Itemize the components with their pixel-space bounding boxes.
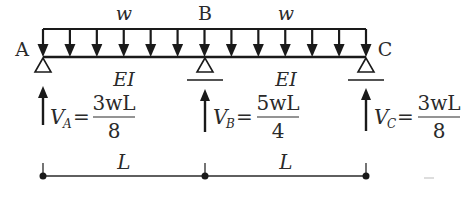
reaction-numerator: 5wL xyxy=(256,91,299,115)
support-label-b: B xyxy=(198,2,212,24)
reaction-c: V C = 3wL 8 xyxy=(374,91,461,143)
arrowhead-down-icon xyxy=(307,44,318,57)
dimension-dot xyxy=(202,173,209,180)
dimension-dot xyxy=(363,173,370,180)
support-b-roller xyxy=(187,58,223,80)
support-c-roller xyxy=(348,58,384,80)
arrowhead-down-icon xyxy=(361,44,372,57)
arrowhead-up-icon xyxy=(38,86,48,98)
arrowhead-down-icon xyxy=(334,44,345,57)
arrowhead-down-icon xyxy=(253,44,264,57)
support-a-pin xyxy=(35,58,51,72)
reaction-denominator: 4 xyxy=(272,119,285,143)
arrowhead-down-icon xyxy=(172,44,183,57)
stiffness-label-left: EI xyxy=(112,68,135,90)
support-label-a: A xyxy=(14,38,29,60)
roller-support-icon xyxy=(358,58,374,72)
load-label-right: w xyxy=(278,2,294,24)
span-label-left: L xyxy=(116,150,130,174)
arrowhead-down-icon xyxy=(199,44,210,57)
reaction-subscript: C xyxy=(387,117,396,131)
arrowhead-down-icon xyxy=(91,44,102,57)
dimension-line xyxy=(40,163,370,180)
reaction-denominator: 8 xyxy=(433,119,446,143)
arrowhead-up-icon xyxy=(361,88,371,100)
pin-support-icon xyxy=(35,58,51,72)
load-arrows xyxy=(38,29,372,57)
reaction-denominator: 8 xyxy=(108,119,121,143)
reaction-equals: = xyxy=(397,105,414,129)
beam-diagram: w w B A C EI EI V A = 3wL 8 V B = 5wL 4 … xyxy=(0,0,469,201)
arrowhead-down-icon xyxy=(64,44,75,57)
support-label-c: C xyxy=(378,38,393,60)
arrowhead-down-icon xyxy=(118,44,129,57)
reaction-b: V B = 5wL 4 xyxy=(213,91,300,143)
reaction-equals: = xyxy=(236,105,253,129)
dimension-dot xyxy=(40,173,47,180)
reaction-subscript: B xyxy=(225,117,235,131)
arrowhead-down-icon xyxy=(38,44,49,57)
reaction-numerator: 3wL xyxy=(417,91,460,115)
arrowhead-down-icon xyxy=(145,44,156,57)
arrowhead-up-icon xyxy=(200,89,210,101)
reaction-a: V A = 3wL 8 xyxy=(50,91,136,143)
arrowhead-down-icon xyxy=(226,44,237,57)
reaction-subscript: A xyxy=(62,117,72,131)
load-label-left: w xyxy=(116,2,132,24)
reaction-equals: = xyxy=(73,105,90,129)
span-label-right: L xyxy=(278,150,292,174)
roller-support-icon xyxy=(197,58,213,72)
stiffness-label-right: EI xyxy=(274,68,297,90)
reaction-numerator: 3wL xyxy=(92,91,135,115)
arrowhead-down-icon xyxy=(280,44,291,57)
